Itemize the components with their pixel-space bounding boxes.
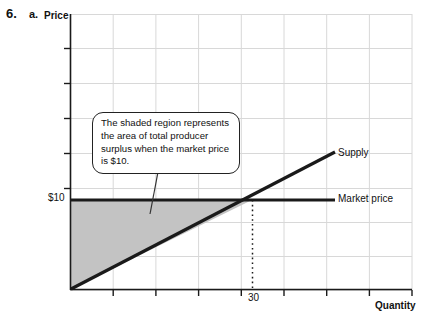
supply-curve-label: Supply — [338, 147, 369, 159]
x-tick-label-quantity: 30 — [248, 292, 259, 304]
callout-text: The shaded region represents the area of… — [101, 117, 229, 166]
market-price-line-label: Market price — [338, 193, 393, 205]
y-axis-ticks — [64, 49, 70, 189]
producer-surplus-callout: The shaded region represents the area of… — [92, 112, 240, 174]
y-tick-label-price: $10 — [48, 192, 65, 204]
x-axis-label: Quantity — [375, 300, 416, 312]
producer-surplus-figure: 6. a. Price — [0, 0, 429, 326]
